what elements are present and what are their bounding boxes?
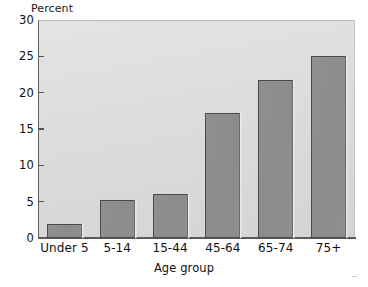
- x-axis-tick-label: 45-64: [205, 241, 240, 255]
- y-axis-tick-label: 5: [0, 195, 34, 209]
- bar: [311, 56, 346, 238]
- x-axis-tick-label: Under 5: [40, 241, 88, 255]
- y-axis-tick-label: 20: [0, 86, 34, 100]
- bar: [47, 224, 82, 238]
- y-axis-tick-label: 30: [0, 13, 34, 27]
- bar: [258, 80, 293, 238]
- scan-artifact: [352, 276, 357, 277]
- bars-layer: [38, 20, 355, 238]
- x-axis-title: Age group: [0, 261, 368, 275]
- x-axis-tick-label: 65-74: [258, 241, 293, 255]
- y-axis-tick-label: 10: [0, 158, 34, 172]
- y-axis-tick-label: 15: [0, 122, 34, 136]
- bar: [153, 194, 188, 238]
- bar-chart-figure: Percent 051015202530 Under 55-1415-4445-…: [0, 0, 368, 287]
- bar: [205, 113, 240, 238]
- y-axis-tick-label: 0: [0, 231, 34, 245]
- x-axis-tick-label: 5-14: [103, 241, 131, 255]
- y-axis-tick-label: 25: [0, 49, 34, 63]
- x-axis-tick-label: 75+: [316, 241, 342, 255]
- y-axis-title: Percent: [31, 2, 73, 15]
- bar: [100, 200, 135, 239]
- x-axis-tick-label: 15-44: [152, 241, 187, 255]
